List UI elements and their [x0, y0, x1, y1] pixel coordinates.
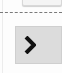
dashed-divider: [0, 12, 62, 13]
panel-fragment: [0, 0, 62, 73]
top-button[interactable]: [22, 0, 62, 6]
next-button[interactable]: [15, 26, 62, 64]
left-border-line: [2, 0, 3, 73]
chevron-right-icon: [24, 36, 36, 54]
